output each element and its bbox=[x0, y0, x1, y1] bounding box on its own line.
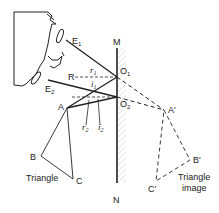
ray-e2 bbox=[48, 80, 117, 97]
label-i2: i2 bbox=[98, 122, 104, 133]
caption-object: Triangle bbox=[26, 173, 58, 183]
label-a: A bbox=[58, 102, 64, 112]
label-c-image: C' bbox=[148, 184, 156, 194]
label-o2: O2 bbox=[120, 99, 131, 110]
label-r1: r1 bbox=[90, 65, 97, 76]
object-triangle bbox=[41, 108, 73, 179]
label-e1: E1 bbox=[72, 36, 82, 47]
label-b: B bbox=[30, 152, 36, 162]
ray-a-o2 bbox=[67, 97, 117, 108]
face-profile bbox=[14, 12, 65, 86]
label-o1: O1 bbox=[120, 66, 131, 77]
label-r2: r2 bbox=[82, 122, 89, 133]
label-c: C bbox=[76, 176, 83, 186]
image-triangle bbox=[156, 110, 190, 181]
label-r: R bbox=[68, 72, 75, 82]
caption-image-line2: image bbox=[182, 183, 207, 193]
reflection-diagram: M N O1 O2 E1 E2 R r1 i1 r2 i2 A B C A' B… bbox=[0, 0, 219, 213]
label-b-image: B' bbox=[193, 155, 201, 165]
label-n: N bbox=[113, 195, 120, 205]
label-i1: i1 bbox=[91, 79, 97, 90]
label-a-image: A' bbox=[168, 105, 176, 115]
label-m: M bbox=[113, 37, 121, 47]
caption-image-line1: Triangle bbox=[178, 172, 210, 182]
eye-upper bbox=[55, 29, 64, 44]
label-e2: E2 bbox=[45, 84, 55, 95]
